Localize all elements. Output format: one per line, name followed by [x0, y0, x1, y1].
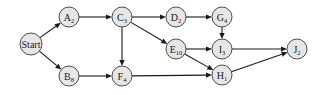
edge-e-to-i — [186, 46, 212, 51]
node-a: A2 — [59, 7, 79, 27]
arrowhead-icon — [106, 73, 112, 78]
edge-d-to-g — [186, 14, 212, 19]
arrowhead-icon — [160, 14, 166, 19]
node-i: I3 — [212, 39, 232, 59]
arrowhead-icon — [206, 14, 212, 19]
edge-line — [131, 22, 163, 41]
node-e: E10 — [166, 39, 186, 59]
edge-start-to-b — [39, 51, 61, 69]
edge-a-to-c — [79, 14, 112, 19]
edge-line — [231, 54, 281, 71]
edge-c-to-e — [131, 22, 168, 44]
arrowhead-icon — [206, 73, 212, 78]
node-d: D2 — [166, 7, 186, 27]
edge-c-to-d — [132, 14, 166, 19]
edge-c-to-f — [119, 27, 124, 66]
arrowhead-icon — [106, 14, 112, 19]
node-label: Start — [22, 39, 41, 50]
edge-h-to-j — [231, 52, 287, 72]
node-h: H1 — [212, 65, 232, 85]
node-j: J2 — [287, 39, 307, 59]
node-c: C3 — [112, 7, 132, 27]
edge-start-to-a — [40, 23, 61, 38]
node-f: F4 — [112, 66, 132, 86]
edge-f-to-h — [132, 73, 212, 78]
node-g: G4 — [212, 7, 232, 27]
arrowhead-icon — [219, 33, 224, 39]
arrowhead-icon — [281, 52, 288, 57]
edge-line — [40, 26, 56, 37]
arrowhead-icon — [119, 60, 124, 66]
edge-b-to-f — [79, 73, 112, 78]
arrowhead-icon — [206, 46, 212, 51]
edge-e-to-h — [185, 54, 214, 70]
nodes-layer: StartA2B8C3F4D2G4E10I3H1J2 — [20, 7, 307, 86]
arrowhead-icon — [281, 46, 287, 51]
edge-line — [132, 75, 206, 76]
edge-line — [39, 51, 56, 66]
edge-g-to-i — [219, 27, 224, 39]
node-b: B8 — [59, 66, 79, 86]
edge-line — [185, 54, 208, 67]
node-start: Start — [20, 33, 42, 55]
arrowhead-icon — [54, 23, 60, 29]
activity-network-diagram: StartA2B8C3F4D2G4E10I3H1J2 — [0, 0, 326, 95]
edge-i-to-j — [232, 46, 287, 51]
